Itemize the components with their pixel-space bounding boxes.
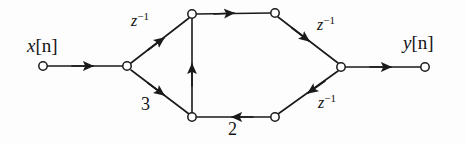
signal-flow-graph-figure: x[n] y[n] z−1 z−1 z−1 3 2 — [0, 0, 466, 144]
output-signal-label: y[n] — [403, 33, 434, 52]
edge-delay-top-left-arrow — [148, 38, 164, 50]
input-signal-label: x[n] — [27, 36, 58, 55]
bottom-right-node[interactable] — [271, 113, 279, 121]
gain-label-three: 3 — [141, 95, 150, 113]
output-index-label: [n] — [411, 32, 433, 53]
delay-exponent-bottom-right: −1 — [324, 92, 336, 104]
edge-gain-three-arrow — [148, 83, 164, 95]
delay-label-top-right: z−1 — [317, 15, 335, 33]
input-node[interactable] — [39, 62, 47, 70]
delay-exponent-top-right: −1 — [323, 14, 335, 26]
edge-delay-bottom-right-arrow — [308, 81, 325, 93]
left-junction-node[interactable] — [123, 62, 131, 70]
top-right-node[interactable] — [271, 9, 279, 17]
top-left-node[interactable] — [188, 10, 196, 18]
delay-label-top-left: z−1 — [131, 11, 149, 29]
bottom-left-node[interactable] — [188, 113, 196, 121]
edge-delay-top-right-arrow — [292, 28, 309, 41]
output-node[interactable] — [421, 63, 429, 71]
delay-label-bottom-right: z−1 — [318, 93, 336, 111]
right-junction-node[interactable] — [337, 63, 345, 71]
input-index-label: [n] — [35, 35, 57, 56]
delay-exponent-top-left: −1 — [137, 10, 149, 22]
edge-top-arrow — [214, 13, 234, 14]
gain-label-two: 2 — [228, 120, 237, 138]
